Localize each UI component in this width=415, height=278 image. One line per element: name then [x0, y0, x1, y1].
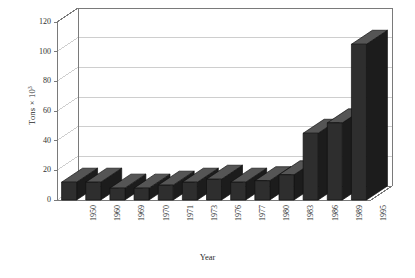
bar-chart: Tons × 103 Year 020406080100120 19501960…: [0, 0, 415, 278]
bars-group: [62, 30, 388, 200]
y-axis-title-exponent: 3: [27, 86, 33, 89]
y-tick-label: 80: [21, 76, 51, 85]
y-tick-label: 60: [21, 106, 51, 115]
bar-front-face: [207, 179, 222, 200]
bar-front-face: [351, 44, 366, 200]
gridline-left-wall: [57, 97, 78, 111]
top-depth-edge: [57, 8, 78, 22]
x-tick-label: 1969: [137, 205, 146, 221]
chart-canvas: [0, 0, 415, 278]
bar-front-face: [158, 185, 173, 200]
gridline-left-wall: [57, 156, 78, 170]
bar-1995: [351, 30, 387, 200]
bar-front-face: [255, 181, 270, 200]
bar-side-face: [366, 30, 387, 200]
x-tick-label: 1977: [258, 205, 267, 221]
x-tick-label: 1971: [186, 205, 195, 221]
y-tick-label: 120: [21, 17, 51, 26]
x-tick-label: 1970: [162, 205, 171, 221]
x-tick-label: 1980: [282, 205, 291, 221]
x-axis-title: Year: [0, 252, 415, 262]
x-tick-label: 1989: [355, 205, 364, 221]
bar-front-face: [279, 175, 294, 200]
y-tick-label: 20: [21, 165, 51, 174]
gridline-left-wall: [57, 127, 78, 141]
x-tick-label: 1995: [379, 205, 388, 221]
y-tick-label: 0: [21, 195, 51, 204]
bar-front-face: [182, 182, 197, 200]
bar-front-face: [134, 188, 149, 200]
x-tick-label: 1950: [89, 205, 98, 221]
bar-front-face: [231, 182, 246, 200]
bar-front-face: [62, 182, 77, 200]
gridline-left-wall: [57, 38, 78, 52]
y-tick-label: 100: [21, 47, 51, 56]
x-tick-label: 1983: [306, 205, 315, 221]
x-tick-label: 1960: [113, 205, 122, 221]
bar-front-face: [86, 182, 101, 200]
gridline-left-wall: [57, 67, 78, 81]
bar-front-face: [110, 188, 125, 200]
x-tick-label: 1973: [210, 205, 219, 221]
y-tick-label: 40: [21, 136, 51, 145]
x-tick-label: 1986: [331, 205, 340, 221]
bar-front-face: [303, 133, 318, 200]
x-tick-label: 1976: [234, 205, 243, 221]
bar-front-face: [327, 123, 342, 200]
